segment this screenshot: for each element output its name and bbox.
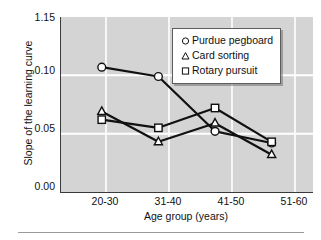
data-point bbox=[268, 138, 275, 145]
x-tick-label: 31-40 bbox=[136, 195, 200, 207]
legend-item-rotary-pursuit: Rotary pursuit bbox=[179, 63, 273, 78]
footer-divider bbox=[18, 232, 304, 233]
data-point bbox=[98, 107, 106, 114]
legend-label: Card sorting bbox=[192, 49, 249, 62]
x-axis-title: Age group (years) bbox=[60, 210, 312, 222]
x-axis-tick-labels: 20-30 31-40 41-50 51-60 bbox=[60, 195, 312, 211]
data-point bbox=[98, 116, 105, 123]
x-tick-label: 20-30 bbox=[73, 195, 137, 207]
x-tick-label: 51-60 bbox=[262, 195, 321, 207]
data-point bbox=[155, 73, 163, 81]
legend-item-purdue-pegboard: Purdue pegboard bbox=[179, 33, 273, 48]
triangle-marker-icon bbox=[179, 49, 192, 62]
y-tick-label: 1.15 bbox=[25, 11, 55, 23]
circle-marker-icon bbox=[179, 34, 192, 47]
data-point bbox=[211, 127, 219, 135]
legend-item-card-sorting: Card sorting bbox=[179, 48, 273, 63]
series-card-sorting bbox=[98, 107, 276, 158]
legend-label: Rotary pursuit bbox=[192, 64, 257, 77]
square-marker-icon bbox=[179, 64, 192, 77]
data-point bbox=[98, 63, 106, 71]
x-tick-label: 41-50 bbox=[199, 195, 263, 207]
figure: Slope of the learning curve 1.15 0.10 0.… bbox=[0, 0, 321, 240]
y-axis-tick-labels: 1.15 0.10 0.05 0.00 bbox=[22, 0, 55, 240]
legend: Purdue pegboard Card sorting Rotary purs… bbox=[172, 28, 281, 84]
y-tick-label: 0.10 bbox=[25, 64, 55, 76]
y-tick-label: 0.05 bbox=[25, 122, 55, 134]
data-point bbox=[211, 119, 219, 126]
data-point bbox=[211, 104, 218, 111]
y-tick-label: 0.00 bbox=[25, 180, 55, 192]
legend-label: Purdue pegboard bbox=[192, 34, 273, 47]
data-point bbox=[155, 124, 162, 131]
